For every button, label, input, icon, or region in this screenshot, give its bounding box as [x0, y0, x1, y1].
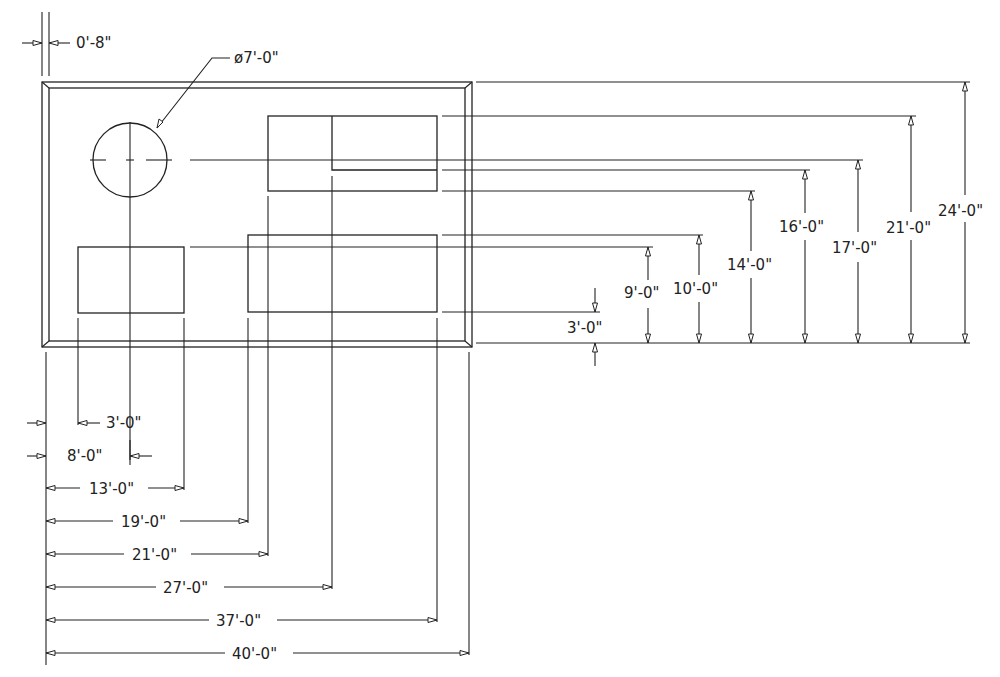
hdim-13ft: 13'-0"	[89, 480, 134, 498]
vdim-16ft: 16'-0"	[779, 218, 824, 236]
hole-diameter-label: ø7'-0"	[234, 49, 279, 67]
hole-circle	[90, 122, 172, 460]
opening-lower-left	[78, 247, 184, 313]
vdim-17ft: 17'-0"	[832, 239, 877, 257]
vertical-dimensions: 3'-0" 9'-0" 10'-0" 14'-0" 16'-0" 17'-0" …	[567, 82, 983, 366]
hdim-40ft: 40'-0"	[232, 645, 277, 663]
vdim-14ft: 14'-0"	[727, 256, 772, 274]
hdim-21ft: 21'-0"	[132, 546, 177, 564]
hdim-37ft: 37'-0"	[216, 612, 261, 630]
base-plate-drawing: 0'-8" ø7'-0" 3'-0" 9'-0" 10'-0" 14'-0" 1…	[0, 0, 1000, 677]
plate-outline	[42, 82, 472, 347]
plate-thickness-label: 0'-8"	[76, 34, 112, 52]
diameter-leader	[157, 58, 230, 128]
extension-lines-right	[190, 82, 970, 343]
hdim-3ft: 3'-0"	[106, 414, 142, 432]
hdim-19ft: 19'-0"	[121, 513, 166, 531]
vdim-10ft: 10'-0"	[673, 280, 718, 298]
hdim-8ft: 8'-0"	[67, 447, 103, 465]
vdim-9ft: 9'-0"	[624, 284, 660, 302]
vdim-21ft: 21'-0"	[886, 219, 931, 237]
opening-upper-right-inner	[332, 116, 437, 170]
vdim-24ft: 24'-0"	[938, 202, 983, 220]
opening-upper-right	[268, 116, 437, 191]
hdim-27ft: 27'-0"	[163, 579, 208, 597]
openings	[78, 116, 437, 313]
dim-plate-thickness: 0'-8"	[22, 12, 112, 76]
vdim-3ft: 3'-0"	[567, 319, 603, 337]
